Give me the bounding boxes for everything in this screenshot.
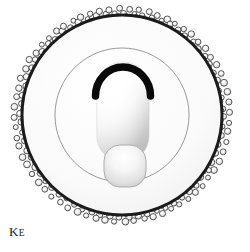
corona-bead [224,139,229,144]
corona-bead [177,202,182,207]
corona-bead [226,120,231,125]
corona-bead [136,7,141,12]
corona-bead [42,186,48,192]
corona-bead [16,85,23,92]
corona-bead [192,189,198,195]
corona-bead [84,213,89,218]
corona-bead [33,50,39,56]
corona-bead [11,114,17,120]
corona-bead [77,14,83,20]
figure-label-main: K [9,224,19,239]
corona-bead [35,179,42,186]
corona-bead [218,71,224,77]
corona-bead [102,217,109,224]
corona-bead [216,158,222,164]
corona-bead [181,26,186,31]
basal-bulb [104,145,146,187]
corona-bead [29,171,34,176]
corona-bead [186,196,191,201]
corona-bead [93,215,99,221]
corona-bead [172,21,177,26]
corona-bead [96,8,102,14]
corona-bead [224,88,231,95]
corona-bead [169,206,174,211]
corona-bead [74,208,81,215]
corona-bead [65,205,71,211]
corona-bead [47,36,52,41]
corona-bead [49,194,54,199]
corona-bead [16,143,22,149]
corona-bead [106,7,112,13]
corona-bead [26,56,32,62]
corona-bead [24,161,31,168]
corona-bead [127,6,133,12]
corona-bead [224,128,230,134]
corona-bead [14,135,20,141]
corona-bead [226,109,232,115]
corona-bead [146,9,152,15]
figure-label-subscript: E [19,228,25,238]
corona-bead [122,218,129,225]
corona-bead [58,199,64,205]
corona-bead [202,45,208,51]
corona-bead [220,149,226,155]
corona-bead [60,23,66,29]
corona-bead [159,211,165,217]
corona-bead [150,214,156,220]
corona-bead [142,216,147,221]
figure-label: KE [9,225,25,239]
corona-bead [213,62,219,68]
corona-bead [200,184,205,189]
corona-bead [13,125,18,130]
schematic-diagram [0,0,250,252]
corona-bead [17,75,23,81]
corona-bead [195,39,201,45]
corona-bead [117,5,123,11]
corona-bead [206,175,211,180]
corona-bead [188,31,195,38]
basal-bulb-group [104,145,146,187]
corona-bead [208,54,214,60]
corona-bead [226,99,232,105]
corona-bead [221,79,228,86]
corona-bead [11,103,18,110]
corona-bead [111,219,116,224]
corona-bead [23,66,30,73]
corona-bead [87,11,92,16]
corona-bead [39,42,44,47]
figure-container: KE [0,0,250,252]
corona-bead [19,154,26,161]
corona-bead [154,13,160,19]
